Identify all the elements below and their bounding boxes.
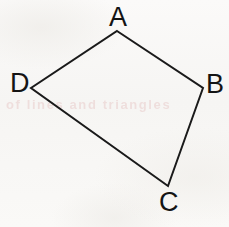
vertex-label-d: D [10, 70, 30, 97]
quadrilateral-outline [31, 31, 203, 186]
vertex-label-b: B [206, 71, 224, 98]
vertex-label-a: A [109, 4, 127, 31]
quadrilateral-svg [0, 0, 229, 227]
vertex-label-c: C [159, 189, 179, 216]
geometry-figure-canvas: of lines and triangles A B C D [0, 0, 229, 227]
